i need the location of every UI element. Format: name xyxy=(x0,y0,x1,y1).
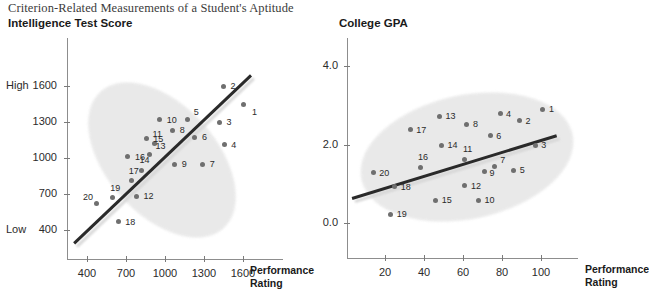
data-point[interactable] xyxy=(144,136,149,141)
data-point[interactable] xyxy=(408,127,413,132)
y-axis-tick-label: 1000 xyxy=(11,151,57,163)
data-point-label: 17 xyxy=(416,125,426,135)
x-axis-tick xyxy=(385,255,386,261)
x-axis-tick xyxy=(204,256,205,262)
data-point-label: 11 xyxy=(463,144,472,154)
data-point[interactable] xyxy=(241,102,246,107)
data-point-label: 5 xyxy=(194,107,199,117)
data-point[interactable] xyxy=(217,120,222,125)
data-point-label: 2 xyxy=(526,116,531,126)
x-axis-tick xyxy=(126,256,127,262)
figure-title: Criterion-Related Measurements of a Stud… xyxy=(8,1,294,16)
x-axis-tick xyxy=(463,255,464,261)
y-axis-tick xyxy=(344,145,350,146)
data-point-label: 3 xyxy=(227,117,232,127)
x-axis-tick xyxy=(424,255,425,261)
data-point[interactable] xyxy=(388,212,393,217)
data-point-label: 20 xyxy=(379,168,389,178)
x-axis-title-line2: Rating xyxy=(250,277,314,290)
data-point-label: 16 xyxy=(135,152,145,162)
y-axis-tick xyxy=(64,122,70,123)
data-point-label: 4 xyxy=(506,109,511,119)
data-point-label: 8 xyxy=(180,125,185,135)
x-axis-title: PerformanceRating xyxy=(250,264,314,290)
data-point-label: 7 xyxy=(210,159,215,169)
data-point-label: 6 xyxy=(496,131,501,141)
data-point-label: 20 xyxy=(83,192,93,202)
x-axis-title-line2: Rating xyxy=(585,276,649,289)
data-point[interactable] xyxy=(221,84,226,89)
data-point[interactable] xyxy=(418,165,423,170)
data-point-label: 8 xyxy=(473,119,478,129)
y-axis-tick-label: 700 xyxy=(11,187,57,199)
data-point-label: 9 xyxy=(489,168,494,178)
data-point[interactable] xyxy=(139,168,144,173)
data-point-label: 15 xyxy=(442,195,452,205)
data-point[interactable] xyxy=(172,162,177,167)
x-axis-tick xyxy=(165,256,166,262)
data-point[interactable] xyxy=(110,195,115,200)
data-point[interactable] xyxy=(437,114,442,119)
y-axis-tick xyxy=(64,86,70,87)
data-point-label: 1 xyxy=(252,107,257,117)
x-axis-title: PerformanceRating xyxy=(585,263,649,289)
x-axis-tick xyxy=(87,256,88,262)
data-point[interactable] xyxy=(94,201,99,206)
x-axis-title-line1: Performance xyxy=(585,263,649,276)
data-point-label: 7 xyxy=(500,155,505,165)
x-axis-tick xyxy=(541,255,542,261)
y-axis-high-label: High xyxy=(6,79,29,91)
data-point-label: 12 xyxy=(143,191,153,201)
data-point-label: 18 xyxy=(401,182,411,192)
data-point[interactable] xyxy=(116,219,121,224)
x-axis-tick-label: 100 xyxy=(516,266,566,278)
data-point[interactable] xyxy=(476,198,481,203)
data-point-label: 5 xyxy=(520,165,525,175)
data-point-label: 10 xyxy=(485,195,495,205)
data-point-label: 9 xyxy=(182,159,187,169)
y-axis-tick xyxy=(64,230,70,231)
y-axis-tick xyxy=(344,223,350,224)
x-axis-tick xyxy=(502,255,503,261)
data-point-label: 3 xyxy=(541,140,546,150)
data-point-label: 13 xyxy=(446,111,456,121)
data-point[interactable] xyxy=(200,162,205,167)
data-point-label: 10 xyxy=(167,115,177,125)
y-axis-tick xyxy=(64,194,70,195)
y-axis-tick-label: 4.0 xyxy=(292,59,338,71)
data-point-label: 1 xyxy=(549,104,554,114)
data-point[interactable] xyxy=(511,168,516,173)
data-point-label: 19 xyxy=(397,209,407,219)
data-point[interactable] xyxy=(498,111,503,116)
data-point[interactable] xyxy=(433,198,438,203)
chart-title: College GPA xyxy=(339,17,408,29)
data-point-label: 12 xyxy=(471,181,481,191)
data-point-label: 14 xyxy=(448,140,458,150)
y-axis-line xyxy=(67,38,68,259)
y-axis-tick-label: 0.0 xyxy=(292,216,338,228)
data-point-label: 17 xyxy=(129,166,139,176)
data-point-label: 2 xyxy=(231,81,236,91)
data-point-label: 19 xyxy=(110,183,120,193)
data-point[interactable] xyxy=(533,143,538,148)
y-axis-tick xyxy=(344,66,350,67)
y-axis-tick-label: 1300 xyxy=(11,115,57,127)
x-axis-tick xyxy=(243,256,244,262)
data-point[interactable] xyxy=(439,143,444,148)
data-point-label: 6 xyxy=(202,132,207,142)
data-point-label: 16 xyxy=(418,152,428,162)
data-point-label: 18 xyxy=(125,217,135,227)
data-point-label: 4 xyxy=(231,140,236,150)
y-axis-line xyxy=(347,38,348,258)
x-axis-line xyxy=(67,259,283,260)
data-point[interactable] xyxy=(222,142,227,147)
y-axis-low-label: Low xyxy=(6,223,26,235)
chart-title: Intelligence Test Score xyxy=(8,17,132,29)
y-axis-tick xyxy=(64,158,70,159)
data-point-label: 15 xyxy=(153,134,163,144)
data-cloud-ellipse xyxy=(348,74,585,240)
data-point[interactable] xyxy=(134,194,139,199)
y-axis-tick-label: 2.0 xyxy=(292,138,338,150)
data-point[interactable] xyxy=(192,135,197,140)
x-axis-title-line1: Performance xyxy=(250,264,314,277)
